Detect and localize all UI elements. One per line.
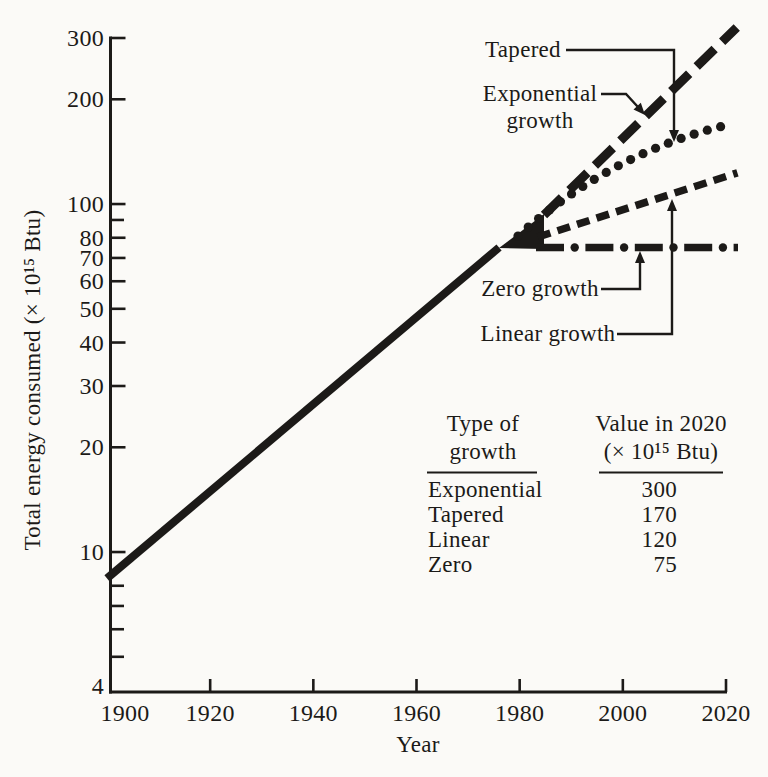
energy-growth-chart: 3002001008070605040302010419001920194019… <box>0 0 768 777</box>
y-tick-label: 20 <box>79 434 104 460</box>
table-row-value: 120 <box>642 527 677 552</box>
tapered-dot <box>651 144 660 153</box>
table-col-header: (× 10¹⁵ Btu) <box>604 439 719 464</box>
series-tapered <box>513 122 725 241</box>
x-tick-label: 1920 <box>186 700 235 726</box>
tapered-dot <box>545 205 554 214</box>
zero-dot <box>669 243 677 251</box>
callout-exponential-growth: Exponentialgrowth <box>483 81 645 133</box>
callout-leader-line <box>617 211 672 334</box>
y-tick-label: 50 <box>79 296 104 322</box>
x-tick-label: 1940 <box>289 700 338 726</box>
table-col-header: Value in 2020 <box>595 411 727 436</box>
axes: 3002001008070605040302010419001920194019… <box>67 25 751 726</box>
zero-dot <box>620 243 628 251</box>
y-tick-label: 10 <box>79 539 104 565</box>
tapered-dot <box>534 214 543 223</box>
zero-dot <box>719 243 727 251</box>
table-row-type: Zero <box>428 552 473 577</box>
zero-dot <box>571 243 579 251</box>
tapered-dot <box>614 161 623 170</box>
y-tick-label: 30 <box>79 373 104 399</box>
callout-label-zero-growth: Zero growth <box>481 276 599 301</box>
y-tick-label: 4 <box>92 673 104 699</box>
table-row-value: 75 <box>653 552 677 577</box>
table-col-header: Type of <box>447 411 520 436</box>
y-tick-label: 60 <box>79 268 104 294</box>
tapered-dot <box>524 222 533 231</box>
tapered-dot <box>690 130 699 139</box>
tapered-dot <box>602 168 611 177</box>
callout-arrowhead <box>635 251 645 263</box>
table-row-type: Exponential <box>428 477 542 502</box>
table-col-header: growth <box>450 439 517 464</box>
series-linear-growth <box>538 173 737 237</box>
table-row-type: Tapered <box>428 502 504 527</box>
x-tick-label: 2020 <box>701 700 750 726</box>
table-row-value: 170 <box>642 502 677 527</box>
tapered-dot <box>638 149 647 158</box>
x-axis-title: Year <box>396 732 440 757</box>
x-tick-label: 1980 <box>495 700 544 726</box>
tapered-dot <box>567 189 576 198</box>
y-tick-label: 100 <box>67 191 104 217</box>
x-tick-label: 1900 <box>100 700 149 726</box>
y-tick-label: 70 <box>79 245 104 271</box>
table-row-value: 300 <box>642 477 677 502</box>
callout-leader-line <box>601 94 638 107</box>
tapered-dot <box>556 197 565 206</box>
series-zero-growth <box>536 243 738 251</box>
tapered-dot <box>677 134 686 143</box>
callout-zero-growth: Zero growth <box>481 251 645 301</box>
y-axis-title: Total energy consumed (× 10¹⁵ Btu) <box>20 210 45 551</box>
x-tick-label: 2000 <box>598 700 647 726</box>
callout-label-tapered: Tapered <box>485 37 561 62</box>
tapered-dot <box>703 126 712 135</box>
annotations: TaperedExponentialgrowthZero growthLinea… <box>481 37 679 346</box>
y-tick-label: 300 <box>67 25 104 51</box>
tapered-dot <box>590 175 599 184</box>
tapered-dot <box>578 182 587 191</box>
y-tick-label: 40 <box>79 330 104 356</box>
tapered-dot <box>716 122 725 131</box>
table-row-type: Linear <box>428 527 490 552</box>
y-tick-label: 200 <box>67 86 104 112</box>
tapered-dot <box>664 139 673 148</box>
inset-table: Type ofgrowthValue in 2020(× 10¹⁵ Btu)Ex… <box>427 411 727 577</box>
callout-leader-line <box>601 263 640 289</box>
tapered-dot <box>513 231 522 240</box>
callout-label-linear-growth: Linear growth <box>481 321 616 346</box>
x-tick-label: 1960 <box>392 700 441 726</box>
callout-label-exponential-growth: Exponentialgrowth <box>483 81 597 133</box>
callout-arrowhead <box>667 199 677 211</box>
tapered-dot <box>626 155 635 164</box>
figure-energy-growth: 3002001008070605040302010419001920194019… <box>0 0 768 777</box>
